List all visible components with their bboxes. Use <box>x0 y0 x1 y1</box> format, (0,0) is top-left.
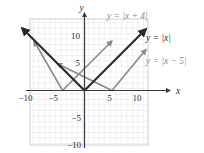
coordinate-plane-svg: x y −10 −5 5 10 10 5 −5 −10 y = |x + 4| … <box>0 0 204 153</box>
x-tick-label-10: 10 <box>133 93 143 103</box>
y-tick-label-neg10: −10 <box>67 140 82 150</box>
graph-figure: x y −10 −5 5 10 10 5 −5 −10 y = |x + 4| … <box>0 0 204 153</box>
y-tick-label-5: 5 <box>76 58 81 68</box>
curve-label-abs-x-minus-5: y = |x − 5| <box>145 56 187 66</box>
y-tick-label-10: 10 <box>71 31 81 41</box>
x-tick-label-neg5: −5 <box>49 93 59 103</box>
curve-label-abs-x-plus-4: y = |x + 4| <box>106 11 148 21</box>
grid-area <box>30 19 148 145</box>
x-tick-label-5: 5 <box>107 93 112 103</box>
x-tick-label-neg10: −10 <box>19 93 34 103</box>
minor-gridlines <box>30 19 148 145</box>
y-tick-label-neg5: −5 <box>71 113 81 123</box>
y-axis-label: y <box>78 3 84 13</box>
curve-label-abs-x: y = |x| <box>145 33 171 43</box>
x-axis-label: x <box>175 86 181 96</box>
